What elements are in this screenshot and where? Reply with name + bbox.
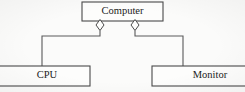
connector-computer-monitor bbox=[135, 31, 183, 67]
uml-aggregation-diagram: Computer CPU Monitor bbox=[0, 0, 245, 92]
node-monitor-label: Monitor bbox=[193, 69, 228, 80]
connector-computer-cpu bbox=[42, 31, 100, 67]
node-computer[interactable]: Computer bbox=[82, 2, 163, 21]
diagram-canvas: Computer CPU Monitor bbox=[0, 0, 245, 92]
node-cpu[interactable]: CPU bbox=[0, 66, 90, 86]
node-computer-label: Computer bbox=[102, 5, 144, 16]
node-cpu-label: CPU bbox=[37, 69, 58, 80]
node-monitor[interactable]: Monitor bbox=[152, 66, 245, 86]
